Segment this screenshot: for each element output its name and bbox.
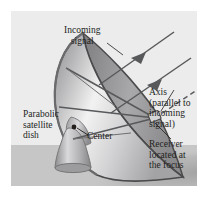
figure-canvas: Incoming signal Axis (parallel to incomi… xyxy=(0,0,207,204)
label-incoming-signal: Incoming signal xyxy=(64,25,100,46)
label-receiver: Receiver located at the focus xyxy=(149,139,186,171)
diagram-panel: Incoming signal Axis (parallel to incomi… xyxy=(11,11,197,186)
pedestal-foot xyxy=(55,163,91,172)
incoming-leader-line xyxy=(107,43,123,55)
label-axis: Axis (parallel to incoming signal) xyxy=(149,87,190,129)
center-point-dot xyxy=(72,125,77,130)
label-center: Center xyxy=(87,131,112,142)
label-parabolic-satellite-dish: Parabolic satellite dish xyxy=(23,109,59,141)
